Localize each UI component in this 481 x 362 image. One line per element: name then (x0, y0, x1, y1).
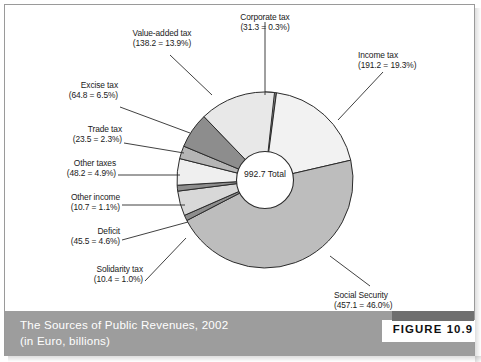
pie-chart: Corporate tax (31.3 = 0.3%) Income tax (… (0, 0, 481, 362)
slice-label-social: Social Security (457.1 = 46.0%) (334, 290, 474, 310)
donut-hub (237, 152, 294, 209)
slice-label-solidarity: Solidarity tax (10.4 = 1.0%) (25, 264, 143, 284)
leader-income (338, 72, 383, 120)
leader-social (330, 256, 370, 286)
slice-label-other-income: Other income (10.7 = 1.1%) (14, 192, 120, 212)
leader-trade (124, 143, 184, 153)
figure-caption: The Sources of Public Revenues, 2002 (in… (20, 317, 228, 349)
slice-label-other-taxes: Other taxes (48.2 = 4.9%) (12, 158, 116, 178)
page-shadow-bottom (8, 356, 481, 362)
leader-excise (120, 107, 190, 133)
slice-label-income: Income tax (191.2 = 19.3%) (358, 50, 478, 70)
figure-page: Corporate tax (31.3 = 0.3%) Income tax (… (0, 0, 481, 362)
leader-solidarity (145, 238, 186, 281)
figure-number: FIGURE 10.9 (390, 323, 476, 335)
slice-label-vat: Value-added tax (138.2 = 13.9%) (96, 28, 228, 48)
slice-label-deficit: Deficit (45.5 = 4.6%) (22, 226, 120, 246)
leader-deficit (122, 222, 188, 240)
slice-label-trade: Trade tax (23.5 = 2.3%) (22, 124, 122, 144)
donut-center-label: 992.7 Total (235, 169, 295, 180)
slice-label-excise: Excise tax (64.8 = 6.5%) (18, 80, 118, 100)
leader-vat (170, 55, 212, 95)
figure-number-tab (392, 311, 474, 321)
page-shadow-right (475, 8, 481, 362)
